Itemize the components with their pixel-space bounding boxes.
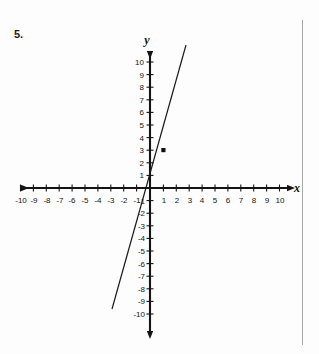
y-tick-label: -3 (138, 222, 146, 231)
y-tick-label: 2 (140, 159, 145, 168)
y-tick-label: 3 (140, 146, 145, 155)
x-tick-label: 1 (162, 196, 167, 205)
x-tick-label: -10 (15, 196, 27, 205)
x-tick-label: 7 (239, 196, 244, 205)
x-tick-label: -5 (81, 196, 89, 205)
x-tick-label: 6 (226, 196, 231, 205)
y-tick-label: 7 (140, 96, 145, 105)
y-tick-label: 10 (135, 58, 144, 67)
x-tick-label: 10 (276, 196, 285, 205)
x-tick-label: 3 (188, 196, 193, 205)
y-axis-negative-tick-labels: -1 -2 -3 -4 -5 -6 -7 -8 -9 -10 (133, 197, 145, 319)
y-tick-label: 9 (140, 71, 145, 80)
y-tick-label: 8 (140, 83, 145, 92)
x-tick-label: -2 (120, 196, 128, 205)
x-tick-label: 8 (252, 196, 257, 205)
y-tick-label: -10 (133, 310, 145, 319)
coordinate-plane-graph: -10 -9 -8 -7 -6 -5 -4 -3 -2 -1 1 2 3 4 5… (0, 0, 319, 354)
x-axis-label: x (293, 181, 300, 195)
y-tick-label: -7 (138, 272, 146, 281)
y-tick-label: 1 (140, 171, 145, 180)
x-tick-label: -8 (43, 196, 51, 205)
x-tick-label: 4 (200, 196, 205, 205)
x-tick-label: -9 (30, 196, 38, 205)
y-tick-label: -9 (138, 297, 146, 306)
plotted-point-marker (161, 148, 165, 152)
y-axis-positive-tick-labels: 1 2 3 4 5 6 7 8 9 10 (135, 58, 144, 180)
x-tick-label: 9 (265, 196, 270, 205)
right-vertical-rule (302, 20, 303, 345)
x-tick-label: -4 (94, 196, 102, 205)
x-tick-label: 5 (213, 196, 218, 205)
x-tick-label: -7 (56, 196, 64, 205)
y-tick-label: -4 (138, 234, 146, 243)
y-axis-label: y (142, 33, 150, 47)
y-tick-label: -8 (138, 285, 146, 294)
x-tick-label: -3 (107, 196, 115, 205)
y-tick-label: 5 (140, 121, 145, 130)
y-tick-label: 6 (140, 108, 145, 117)
y-tick-label: 4 (140, 134, 145, 143)
x-tick-label: -6 (68, 196, 76, 205)
worksheet-page: 5. (0, 0, 319, 354)
x-tick-label: 2 (175, 196, 180, 205)
y-tick-label: -5 (138, 247, 146, 256)
y-tick-label: -6 (138, 260, 146, 269)
